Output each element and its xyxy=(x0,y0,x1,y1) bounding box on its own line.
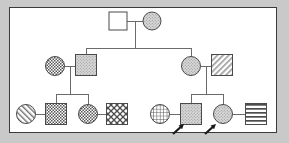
proband-arrow-shaft xyxy=(173,127,181,134)
pedigree-male-square xyxy=(109,12,127,30)
pedigree-stage xyxy=(0,0,289,143)
pedigree-male-square xyxy=(107,104,128,125)
pedigree-female-circle-proband xyxy=(214,105,233,124)
pedigree-female-circle xyxy=(17,105,36,124)
pedigree-female-circle xyxy=(151,105,170,124)
pedigree-male-square xyxy=(46,104,67,125)
pedigree-female-circle xyxy=(182,57,201,76)
pedigree-chart-image xyxy=(0,0,289,143)
proband-arrows xyxy=(173,124,216,134)
pedigree-male-square-proband xyxy=(181,104,202,125)
pedigree-diagram xyxy=(0,0,289,143)
pedigree-female-circle xyxy=(46,57,65,76)
pedigree-female-circle xyxy=(79,105,98,124)
pedigree-female-circle xyxy=(143,12,161,30)
pedigree-male-square xyxy=(246,104,267,125)
pedigree-male-square xyxy=(212,55,233,76)
pedigree-male-square xyxy=(76,55,97,76)
pedigree-symbols xyxy=(17,12,267,125)
proband-arrow-shaft xyxy=(205,127,213,134)
